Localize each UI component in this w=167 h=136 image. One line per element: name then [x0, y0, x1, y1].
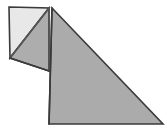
figure-root: folded-paper-triangle-diagram Line drawi… — [0, 0, 167, 136]
folded-paper-diagram: folded-paper-triangle-diagram Line drawi… — [0, 0, 167, 136]
